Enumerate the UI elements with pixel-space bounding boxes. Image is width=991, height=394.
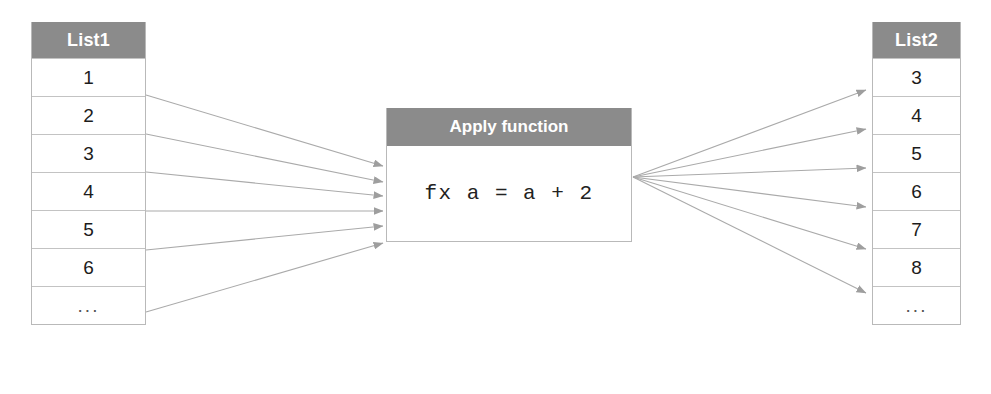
source-list-item-row: 5	[32, 210, 145, 248]
source-list-table: List1 123456...	[31, 22, 146, 325]
target-list-item-row: 7	[873, 210, 960, 248]
source-list-item-row: 1	[32, 58, 145, 96]
input-arrow	[146, 226, 383, 250]
function-box: Apply function fx a = a + 2	[386, 108, 632, 242]
source-list-item-row: 2	[32, 96, 145, 134]
input-arrow	[146, 134, 383, 182]
input-arrow-group	[146, 95, 383, 312]
source-list-item-row: 3	[32, 134, 145, 172]
target-list-item-row: 5	[873, 134, 960, 172]
target-list-table: List2 345678...	[872, 22, 961, 325]
input-arrow	[146, 243, 383, 312]
target-list-item-row: ...	[873, 286, 960, 324]
target-list-item-row: 4	[873, 96, 960, 134]
target-list-item-row: 6	[873, 172, 960, 210]
source-list-body: 123456...	[32, 58, 145, 324]
diagram-canvas: List1 123456... Apply function fx a = a …	[0, 0, 991, 394]
target-list-body: 345678...	[873, 58, 960, 324]
output-arrow	[633, 177, 866, 207]
input-arrow	[146, 172, 383, 196]
source-list-item-row: 4	[32, 172, 145, 210]
input-arrow	[146, 95, 383, 166]
output-arrow-group	[633, 90, 866, 293]
output-arrow	[633, 177, 866, 293]
target-list-header: List2	[873, 22, 960, 58]
target-list-item-row: 8	[873, 248, 960, 286]
output-arrow	[633, 90, 866, 177]
function-box-header: Apply function	[387, 108, 631, 146]
output-arrow	[633, 177, 866, 249]
source-list-header: List1	[32, 22, 145, 58]
function-expression: fx a = a + 2	[387, 146, 631, 241]
target-list-item-row: 3	[873, 58, 960, 96]
source-list-item-row: ...	[32, 286, 145, 324]
source-list-item-row: 6	[32, 248, 145, 286]
